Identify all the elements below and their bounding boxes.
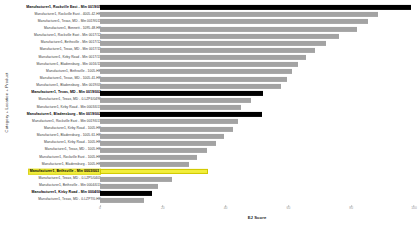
bar-row-label: Manufacturer1, Texas, MD - 0-LZP4/0496: [39, 99, 102, 102]
bar-track: [100, 140, 414, 147]
bar-track: [100, 154, 414, 161]
bar-track: [100, 47, 414, 54]
bar-row-label: Manufacturer1, Texas, MD - Min 0017/11: [40, 49, 101, 52]
bar[interactable]: [100, 126, 233, 131]
bar-row[interactable]: Manufacturer1, Texas, MD - Min 0019/011: [14, 18, 414, 25]
bar-row-label: Manufacturer1, Rockville East - 4005-42-…: [34, 13, 101, 16]
bar-track: [100, 161, 414, 168]
bar-track: [100, 190, 414, 197]
bar[interactable]: [100, 112, 262, 117]
bar[interactable]: [100, 76, 287, 81]
bar-row[interactable]: Manufacturer1, Texas, MD - 1005-41-HK: [14, 75, 414, 82]
bar-track: [100, 61, 414, 68]
bar-track: [100, 33, 414, 40]
bar-track: [100, 40, 414, 47]
bar-row[interactable]: Manufacturer1, Texas, MD - 0-LZP7/0-HK: [14, 197, 414, 204]
bar[interactable]: [100, 119, 238, 124]
plot-area: Manufacturer1, Rockville East - Min 0019…: [14, 4, 414, 204]
bar[interactable]: [100, 198, 144, 203]
bar-track: [100, 54, 414, 61]
bar[interactable]: [100, 176, 172, 181]
bar-row-label: Manufacturer1, Bennett - 1095-48-HK: [44, 27, 101, 30]
bar-row[interactable]: Manufacturer1, Bladensburg - Min 0019/00…: [14, 111, 414, 118]
bar[interactable]: [100, 41, 326, 46]
bar-row[interactable]: Manufacturer1, Rockville East - Min 0017…: [14, 33, 414, 40]
bar[interactable]: [100, 12, 378, 17]
bar[interactable]: [100, 169, 208, 174]
bar[interactable]: [100, 34, 339, 39]
x-axis-tick: 100: [411, 205, 417, 211]
bar-row[interactable]: Manufacturer1, Kirby Road - Min 0003/013: [14, 104, 414, 111]
bar-row-label: Manufacturer1, Bethsville - 1005-HK: [46, 70, 101, 73]
bar-track: [100, 90, 414, 97]
bar-track: [100, 168, 414, 175]
y-axis-title-label: Category + Location + Product: [5, 73, 10, 133]
bar-row[interactable]: Manufacturer1, Texas, MD - 1005-HK: [14, 147, 414, 154]
x-axis-tick-label: 100: [411, 207, 417, 210]
bar-track: [100, 147, 414, 154]
bar-row[interactable]: Manufacturer1, Rockville East - Min 0019…: [14, 4, 414, 11]
bar-row[interactable]: Manufacturer1, Texas, MD - Min 0019/002: [14, 90, 414, 97]
bar[interactable]: [100, 105, 241, 110]
bar-row-label: Manufacturer1, Bethsville - Min 0017/12: [41, 42, 101, 45]
bar-track: [100, 68, 414, 75]
bar[interactable]: [100, 184, 158, 189]
bar-row-label: Manufacturer1, Kirby Road - Min 0017/13: [39, 56, 101, 59]
bar[interactable]: [100, 84, 281, 89]
bar-track: [100, 183, 414, 190]
bar-track: [100, 111, 414, 118]
bar[interactable]: [100, 55, 306, 60]
bar-row[interactable]: Manufacturer1, Bennett - 1095-48-HK: [14, 25, 414, 32]
bar[interactable]: [100, 98, 251, 103]
bar-row[interactable]: Manufacturer1, Bethsville - Min 0003/003: [14, 168, 414, 175]
bar[interactable]: [100, 148, 207, 153]
bar[interactable]: [100, 62, 298, 67]
x-axis-tick-label: 40: [224, 207, 228, 210]
bar[interactable]: [100, 162, 189, 167]
bar-row-label: Manufacturer1, Bethsville - Min 0003/003: [28, 169, 101, 176]
bar[interactable]: [100, 155, 197, 160]
bar-row-label: Manufacturer1, Texas, MD - 1005-HK: [45, 149, 101, 152]
bar-row-label: Manufacturer1, Texas, MD - 1005-41-HK: [40, 77, 101, 80]
x-axis-tick: 60: [287, 205, 291, 211]
bar-track: [100, 125, 414, 132]
bar-row[interactable]: Manufacturer1, Kirby Road - Min 0004/00: [14, 190, 414, 197]
bar-row-label: Manufacturer1, Rockville East - 1005-HK: [39, 156, 101, 159]
bar-track: [100, 133, 414, 140]
bar-track: [100, 75, 414, 82]
bar-row-label: Manufacturer1, Rockville East - Min 0017…: [34, 34, 101, 37]
bar-row[interactable]: Manufacturer1, Rockville East - 4005-42-…: [14, 11, 414, 18]
bar-row[interactable]: Manufacturer1, Kirby Road - 1005-HK: [14, 140, 414, 147]
bar[interactable]: [100, 191, 152, 196]
bar-row[interactable]: Manufacturer1, Kirby Road - Min 0017/13: [14, 54, 414, 61]
x-axis-tick: 20: [161, 205, 165, 211]
bar[interactable]: [100, 134, 224, 139]
bar-row[interactable]: Manufacturer1, Bladensburg - 1005-HK: [14, 161, 414, 168]
bar[interactable]: [100, 26, 357, 31]
bar-row-label: Manufacturer1, Kirby Road - Min 0003/013: [37, 106, 101, 109]
bar-track: [100, 83, 414, 90]
bar-row[interactable]: Manufacturer1, Bethsville - 1005-HK: [14, 68, 414, 75]
bar-row[interactable]: Manufacturer1, Rockville East - Min 0019…: [14, 118, 414, 125]
bar-row[interactable]: Manufacturer1, Texas, MD - 0-LZP5/0401: [14, 175, 414, 182]
bar[interactable]: [100, 19, 368, 24]
bar[interactable]: [100, 69, 292, 74]
bar-row[interactable]: Manufacturer1, Bladensburg - Min 0016/11: [14, 61, 414, 68]
bar-row[interactable]: Manufacturer1, Texas, MD - Min 0017/11: [14, 47, 414, 54]
bar-row[interactable]: Manufacturer1, Kirby Road - 1005-HK: [14, 125, 414, 132]
bar-row[interactable]: Manufacturer1, Rockville East - 1005-HK: [14, 154, 414, 161]
bar-row[interactable]: Manufacturer1, Bladensburg - 1005-61-HK: [14, 133, 414, 140]
bar-track: [100, 97, 414, 104]
bar[interactable]: [100, 141, 216, 146]
y-axis-title: Category + Location + Product: [0, 0, 14, 205]
bar[interactable]: [100, 91, 263, 96]
bar-row[interactable]: Manufacturer1, Bethsville - Min 0004/013: [14, 183, 414, 190]
bar-row-label: Manufacturer1, Texas, MD - 0-LZP5/0401: [39, 177, 102, 180]
bar-row-label: Manufacturer1, Texas, MD - Min 0019/002: [31, 92, 101, 96]
bar-row[interactable]: Manufacturer1, Bethsville - Min 0017/12: [14, 40, 414, 47]
bar[interactable]: [100, 5, 411, 10]
bar[interactable]: [100, 48, 315, 53]
bar-row[interactable]: Manufacturer1, Texas, MD - 0-LZP4/0496: [14, 97, 414, 104]
bar-track: [100, 175, 414, 182]
bar-row[interactable]: Manufacturer1, Bladensburg - Min 0019/03: [14, 83, 414, 90]
